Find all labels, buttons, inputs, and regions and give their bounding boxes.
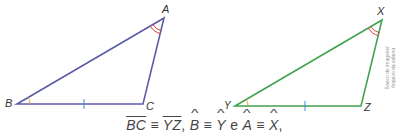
angle-a-arc-inner bbox=[153, 25, 161, 31]
comma-1: , bbox=[181, 117, 185, 133]
angle-a: A bbox=[242, 117, 252, 133]
congruent-symbol-3: ≡ bbox=[256, 117, 264, 133]
vertex-label-b: B bbox=[5, 97, 12, 109]
image-credit: Banco de imagens/ Arquivo da editora bbox=[384, 38, 396, 98]
comma-end: , bbox=[279, 117, 283, 133]
conjunction-e: e bbox=[230, 117, 238, 133]
congruent-symbol-2: ≡ bbox=[204, 117, 212, 133]
vertex-label-a: A bbox=[162, 3, 169, 15]
angle-x-arc-inner bbox=[371, 27, 379, 33]
vertex-label-x: X bbox=[377, 5, 384, 17]
vertex-label-c: C bbox=[146, 100, 154, 112]
triangle-abc bbox=[17, 18, 164, 104]
congruent-symbol-1: ≡ bbox=[150, 117, 158, 133]
vertex-label-z: Z bbox=[364, 101, 371, 113]
congruence-caption: BC ≡ YZ, B ≡ Y e A ≡ X, bbox=[0, 117, 409, 133]
credit-line-2: Arquivo da editora bbox=[390, 38, 396, 98]
angle-b: B bbox=[190, 117, 200, 133]
vertex-label-y: Y bbox=[224, 100, 231, 111]
segment-bc: BC bbox=[126, 117, 146, 133]
triangle-xyz bbox=[235, 20, 382, 106]
angle-x: X bbox=[269, 117, 279, 133]
angle-y: Y bbox=[216, 117, 226, 133]
angle-b-arc bbox=[28, 97, 30, 104]
angle-y-arc bbox=[246, 99, 248, 106]
segment-yz: YZ bbox=[163, 117, 182, 133]
